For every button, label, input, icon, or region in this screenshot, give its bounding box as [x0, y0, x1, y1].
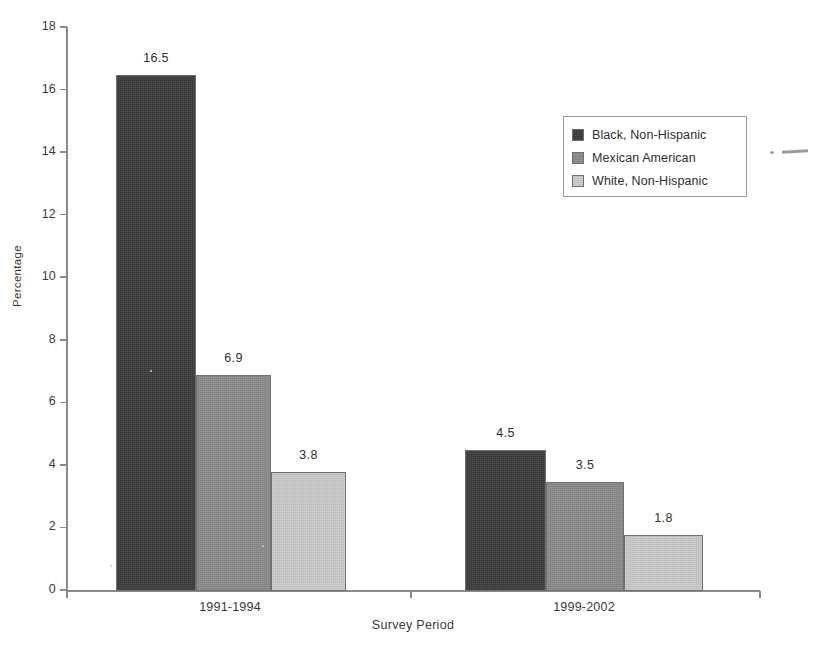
scan-artifact-dot [770, 151, 774, 154]
bar-value-label: 3.8 [264, 448, 354, 462]
bar [624, 535, 703, 591]
legend-item-0: Black, Non-Hispanic [572, 123, 738, 146]
bar [116, 75, 196, 591]
y-axis-tick-label-0: 0 [22, 583, 56, 596]
y-axis-tick-label-8: 8 [22, 333, 56, 346]
y-axis-line [66, 27, 68, 591]
x-axis-category-label-1: 1999-2002 [494, 600, 674, 614]
bar [465, 450, 546, 591]
legend-item-2: White, Non-Hispanic [572, 169, 738, 192]
x-axis-title: Survey Period [313, 618, 513, 632]
bar-value-label: 3.5 [540, 458, 630, 472]
y-axis-tick-12 [60, 214, 67, 216]
scan-artifact-mark [770, 148, 812, 156]
chart-legend: Black, Non-Hispanic Mexican American Whi… [563, 116, 747, 197]
y-axis-tick-10 [60, 276, 67, 278]
x-axis-tick-end [759, 591, 761, 598]
legend-swatch-icon-2 [572, 175, 584, 187]
bar-value-label: 16.5 [111, 51, 201, 65]
y-axis-tick-8 [60, 339, 67, 341]
legend-label-0: Black, Non-Hispanic [592, 128, 706, 142]
y-axis-tick-6 [60, 402, 67, 404]
scan-speckle [110, 565, 112, 567]
x-axis-tick-middle [410, 591, 412, 598]
x-axis-tick-start [66, 591, 68, 598]
legend-label-2: White, Non-Hispanic [592, 174, 708, 188]
y-axis-tick-2 [60, 527, 67, 529]
bar-value-label: 6.9 [189, 351, 279, 365]
scan-speckle [150, 370, 152, 372]
legend-swatch-icon-0 [572, 129, 584, 141]
y-axis-tick-label-2: 2 [22, 520, 56, 533]
scan-artifact-dash [782, 149, 808, 153]
y-axis-tick-label-4: 4 [22, 458, 56, 471]
bar-value-label: 4.5 [461, 426, 551, 440]
y-axis-tick-4 [60, 464, 67, 466]
x-axis-category-label-0: 1991-1994 [140, 600, 320, 614]
y-axis-tick-label-16: 16 [22, 83, 56, 96]
y-axis-tick-14 [60, 151, 67, 153]
bar-chart-figure: 181614121086420 Percentage Survey Period… [0, 0, 826, 660]
bar [271, 472, 346, 591]
scan-speckle [262, 545, 264, 547]
legend-item-1: Mexican American [572, 146, 738, 169]
y-axis-title: Percentage [11, 226, 23, 326]
y-axis-tick-label-18: 18 [22, 20, 56, 33]
bar-value-label: 1.8 [619, 511, 709, 525]
bar [546, 482, 624, 591]
y-axis-tick-label-6: 6 [22, 395, 56, 408]
y-axis-tick-16 [60, 89, 67, 91]
legend-label-1: Mexican American [592, 151, 696, 165]
y-axis-tick-label-10: 10 [22, 270, 56, 283]
y-axis-tick-label-12: 12 [22, 208, 56, 221]
y-axis-tick-label-14: 14 [22, 145, 56, 158]
y-axis-tick-18 [60, 26, 67, 28]
bar [196, 375, 271, 591]
legend-swatch-icon-1 [572, 152, 584, 164]
